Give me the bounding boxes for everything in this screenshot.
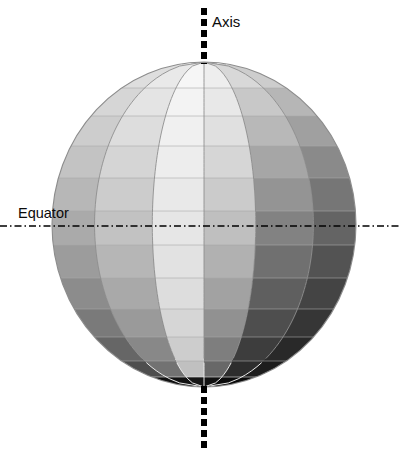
sphere-cell <box>53 245 100 278</box>
sphere-cell <box>253 245 313 278</box>
sphere-cell <box>204 211 256 245</box>
sphere-cell <box>307 245 354 278</box>
sphere-diagram-figure: Axis Equator <box>0 0 400 456</box>
sphere-cell <box>153 178 205 211</box>
sphere-cell <box>204 278 253 309</box>
sphere-cell <box>204 146 254 178</box>
sphere-shading-cells <box>52 62 356 387</box>
sphere-cell <box>95 245 155 278</box>
diagram-canvas: Axis Equator <box>0 0 400 456</box>
sphere-cell <box>204 116 249 146</box>
sphere-cell <box>313 211 356 245</box>
axis-label: Axis <box>212 13 240 30</box>
equator-label: Equator <box>18 205 69 221</box>
sphere-cell <box>95 211 153 245</box>
sphere-cell <box>152 211 204 245</box>
sphere-cell <box>153 245 204 278</box>
sphere-cell <box>155 278 204 309</box>
sphere-cell <box>309 178 356 211</box>
sphere-cell <box>99 146 159 178</box>
sphere-cell <box>101 278 160 309</box>
sphere-cell <box>160 309 204 337</box>
sphere-cell <box>254 178 314 211</box>
sphere-cell <box>248 278 307 309</box>
sphere-cell <box>204 178 256 211</box>
sphere-cell <box>249 146 309 178</box>
sphere-cell <box>154 146 204 178</box>
sphere-cell <box>204 309 248 337</box>
sphere-cell <box>95 178 155 211</box>
sphere-cell <box>204 245 255 278</box>
sphere-cell <box>159 116 204 146</box>
figure-caption <box>0 448 400 456</box>
sphere-cell <box>255 211 313 245</box>
